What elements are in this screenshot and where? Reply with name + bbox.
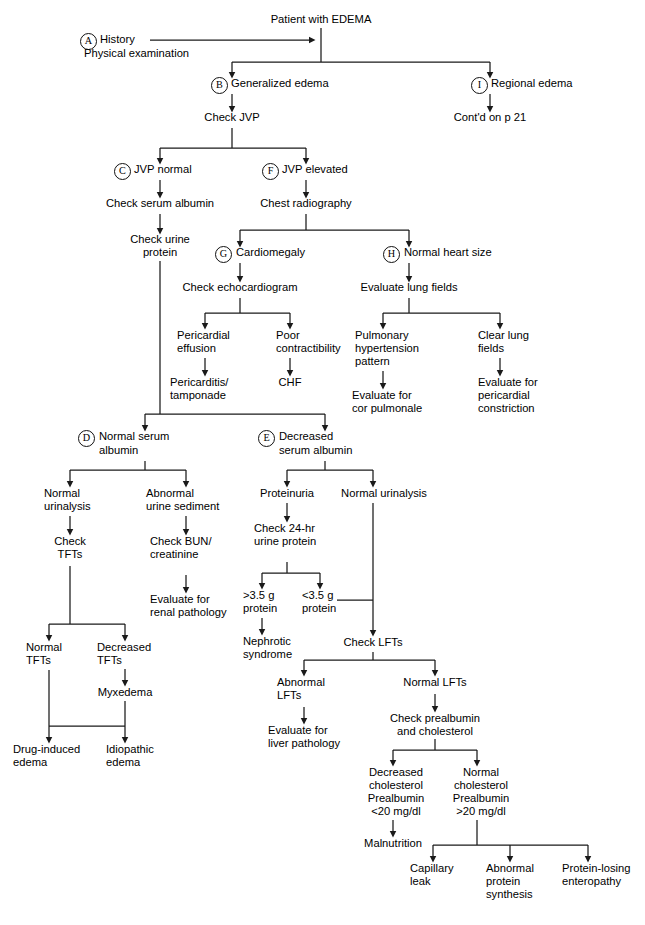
node-check-prealbumin-line2: and cholesterol	[397, 725, 473, 738]
node-eval-pericardial-constriction-line3: constriction	[478, 402, 535, 415]
node-decreased-serum-albumin-line2: serum albumin	[279, 444, 352, 457]
node-abnormal-lfts-line1: Abnormal	[277, 676, 325, 689]
node-chest-radiography: Chest radiography	[260, 197, 351, 210]
node-check-24hr-urine-protein-line2: urine protein	[254, 535, 316, 548]
node-generalized-edema: Generalized edema	[231, 77, 329, 90]
tag-h-icon: H	[383, 246, 400, 263]
node-jvp-normal: JVP normal	[134, 163, 192, 176]
node-root: Patient with EDEMA	[271, 13, 372, 26]
node-contd-p21: Cont'd on p 21	[454, 111, 526, 124]
node-check-24hr-urine-protein-line1: Check 24-hr	[254, 522, 315, 535]
node-decreased-chol-line3: Prealbumin	[368, 792, 425, 805]
node-check-lfts: Check LFTs	[343, 636, 402, 649]
node-check-serum-albumin: Check serum albumin	[106, 197, 214, 210]
node-protein-losing-enteropathy-line1: Protein-losing	[562, 862, 630, 875]
node-eval-renal-pathology-line1: Evaluate for	[150, 593, 210, 606]
node-poor-contractibility-line2: contractibility	[276, 342, 341, 355]
node-jvp-elevated: JVP elevated	[282, 163, 348, 176]
tag-d-icon: D	[78, 430, 95, 447]
node-normal-chol-line3: Prealbumin	[453, 792, 510, 805]
node-regional-edema: Regional edema	[491, 77, 572, 90]
node-clear-lung-fields-line1: Clear lung	[478, 329, 529, 342]
node-nephrotic-syndrome-line1: Nephrotic	[243, 635, 291, 648]
node-normal-serum-albumin-line1: Normal serum	[99, 430, 169, 443]
node-gt35-protein-line2: protein	[243, 602, 277, 615]
node-myxedema: Myxedema	[98, 686, 153, 699]
node-history: History	[100, 33, 135, 46]
edema-algorithm-flowchart: A B I C F G H D E Patient with EDEMA His…	[0, 0, 645, 925]
node-normal-urinalysis-right: Normal urinalysis	[341, 487, 427, 500]
node-pulmonary-htn-line1: Pulmonary	[355, 329, 408, 342]
node-proteinuria: Proteinuria	[260, 487, 314, 500]
node-abnormal-protein-synthesis-line1: Abnormal	[486, 862, 534, 875]
node-cardiomegaly: Cardiomegaly	[236, 246, 305, 259]
node-poor-contractibility-line1: Poor	[276, 329, 300, 342]
node-lt35-protein-line2: protein	[302, 602, 336, 615]
node-normal-serum-albumin-line2: albumin	[99, 444, 138, 457]
node-drug-induced-edema-line2: edema	[13, 756, 47, 769]
node-pericarditis-line1: Pericarditis/	[170, 376, 228, 389]
tag-i-icon: I	[471, 77, 488, 94]
node-decreased-chol-line1: Decreased	[369, 766, 423, 779]
tag-b-icon: B	[211, 77, 228, 94]
node-eval-pericardial-constriction-line1: Evaluate for	[478, 376, 538, 389]
node-normal-urinalysis-line2: urinalysis	[44, 500, 91, 513]
node-normal-heart-size: Normal heart size	[404, 246, 492, 259]
node-check-tfts-line2: TFTs	[58, 548, 83, 561]
node-lt35-protein-line1: <3.5 g	[302, 589, 333, 602]
node-eval-pericardial-constriction-line2: pericardial	[478, 389, 530, 402]
node-check-bun-creatinine-line1: Check BUN/	[150, 535, 212, 548]
node-malnutrition: Malnutrition	[364, 837, 422, 850]
node-idiopathic-edema-line2: edema	[106, 756, 140, 769]
node-protein-losing-enteropathy-line2: enteropathy	[562, 875, 621, 888]
node-abnormal-protein-synthesis-line3: synthesis	[486, 888, 533, 901]
tag-c-icon: C	[114, 163, 131, 180]
node-pericarditis-line2: tamponade	[170, 389, 226, 402]
node-capillary-leak-line2: leak	[410, 875, 431, 888]
node-normal-chol-line4: >20 mg/dl	[456, 805, 505, 818]
node-decreased-chol-line4: <20 mg/dl	[371, 805, 420, 818]
node-normal-tfts-line1: Normal	[26, 641, 62, 654]
node-check-urine-protein-line2: protein	[143, 246, 177, 259]
node-normal-tfts-line2: TFTs	[26, 654, 51, 667]
node-normal-urinalysis-line1: Normal	[44, 487, 80, 500]
node-decreased-serum-albumin-line1: Decreased	[279, 430, 333, 443]
flowchart-connectors	[0, 0, 645, 925]
node-chf: CHF	[279, 376, 302, 389]
node-decreased-chol-line2: cholesterol	[369, 779, 423, 792]
node-evaluate-lung-fields: Evaluate lung fields	[360, 281, 457, 294]
node-gt35-protein-line1: >3.5 g	[243, 589, 274, 602]
node-check-jvp: Check JVP	[204, 111, 259, 124]
node-drug-induced-edema-line1: Drug-induced	[13, 743, 80, 756]
node-pulmonary-htn-line3: pattern	[355, 355, 390, 368]
node-decreased-tfts-line1: Decreased	[97, 641, 151, 654]
node-decreased-tfts-line2: TFTs	[97, 654, 122, 667]
node-clear-lung-fields-line2: fields	[478, 342, 504, 355]
node-normal-lfts: Normal LFTs	[403, 676, 466, 689]
node-eval-cor-pulmonale-line2: cor pulmonale	[352, 402, 422, 415]
node-idiopathic-edema-line1: Idiopathic	[106, 743, 154, 756]
tag-e-icon: E	[258, 430, 275, 447]
node-check-prealbumin-line1: Check prealbumin	[390, 712, 480, 725]
node-eval-cor-pulmonale-line1: Evaluate for	[352, 389, 412, 402]
node-capillary-leak-line1: Capillary	[410, 862, 454, 875]
node-abnormal-protein-synthesis-line2: protein	[486, 875, 520, 888]
node-physical-exam: Physical examination	[84, 47, 189, 60]
node-check-echocardiogram: Check echocardiogram	[182, 281, 297, 294]
node-eval-renal-pathology-line2: renal pathology	[150, 606, 227, 619]
node-abnormal-urine-sediment-line1: Abnormal	[146, 487, 194, 500]
node-pericardial-effusion-line2: effusion	[177, 342, 216, 355]
node-normal-chol-line1: Normal	[463, 766, 499, 779]
node-pulmonary-htn-line2: hypertension	[355, 342, 419, 355]
node-eval-liver-pathology-line1: Evaluate for	[268, 724, 328, 737]
node-abnormal-lfts-line2: LFTs	[277, 689, 301, 702]
node-abnormal-urine-sediment-line2: urine sediment	[146, 500, 219, 513]
node-check-bun-creatinine-line2: creatinine	[150, 548, 199, 561]
node-pericardial-effusion-line1: Pericardial	[177, 329, 230, 342]
tag-g-icon: G	[215, 246, 232, 263]
node-nephrotic-syndrome-line2: syndrome	[243, 648, 292, 661]
node-normal-chol-line2: cholesterol	[454, 779, 508, 792]
node-eval-liver-pathology-line2: liver pathology	[268, 737, 340, 750]
tag-f-icon: F	[262, 163, 279, 180]
node-check-tfts-line1: Check	[54, 535, 86, 548]
